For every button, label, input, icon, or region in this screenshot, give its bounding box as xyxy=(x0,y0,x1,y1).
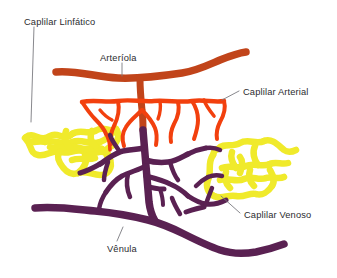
venous-capillary-branch xyxy=(206,148,220,150)
lymphatic-vessel-segment xyxy=(222,164,270,168)
label-venule: Vênula xyxy=(107,244,138,254)
label-venous-capillary: Caplilar Venoso xyxy=(244,210,311,220)
arteriole-descending-branch xyxy=(140,79,143,130)
lymphatic-vessel-segment xyxy=(28,141,45,142)
label-lymphatic-capillary: Caplilar Linfático xyxy=(24,17,95,27)
microcirculation-diagram: Caplilar Linfático Arteríola Caplilar Ar… xyxy=(0,0,337,278)
lymphatic-vessel-segment xyxy=(270,163,288,164)
diagram-canvas: Caplilar Linfático Arteríola Caplilar Ar… xyxy=(0,0,337,278)
lymphatic-vessel-segment xyxy=(266,177,284,178)
lymphatic-vessel-segment xyxy=(72,158,95,160)
lymphatic-vessel-segment xyxy=(240,157,242,173)
lymphatic-vessel-segment xyxy=(214,194,256,198)
venous-capillary-branch xyxy=(208,175,222,177)
label-arteriole: Arteríola xyxy=(100,53,137,63)
label-arterial-capillary: Caplilar Arterial xyxy=(243,87,309,97)
